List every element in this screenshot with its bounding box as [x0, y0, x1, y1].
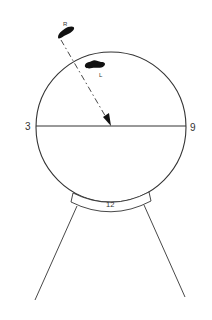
label-l: L: [99, 72, 103, 78]
right-leg: [144, 205, 185, 297]
r-blob-icon: [58, 26, 74, 38]
left-leg: [35, 206, 77, 300]
sphere-circle: [36, 52, 186, 202]
label-9: 9: [190, 122, 196, 133]
label-12: 12: [106, 200, 114, 209]
label-3: 3: [25, 121, 31, 132]
dashed-arrow-line: [61, 40, 107, 119]
label-r: R: [63, 21, 68, 27]
l-blob-icon: [85, 60, 105, 68]
globe-diagram: R L 3 9 12: [0, 0, 212, 320]
